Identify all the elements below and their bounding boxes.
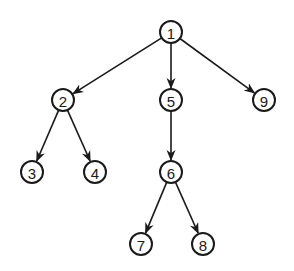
tree-node-5: 5 — [160, 89, 182, 111]
tree-node-4: 4 — [84, 161, 106, 183]
tree-node-2: 2 — [52, 89, 74, 111]
edge-2-to-3 — [37, 110, 59, 161]
edges-group — [37, 38, 255, 233]
tree-node-8: 8 — [192, 233, 214, 255]
node-label: 7 — [137, 237, 145, 254]
node-label: 5 — [167, 93, 175, 110]
tree-diagram: 125934678 — [0, 0, 294, 271]
node-label: 4 — [91, 165, 99, 182]
node-label: 9 — [260, 93, 268, 110]
node-label: 1 — [167, 25, 175, 42]
tree-node-9: 9 — [253, 89, 275, 111]
edge-1-to-9 — [180, 38, 254, 92]
edge-1-to-2 — [73, 38, 162, 94]
nodes-group: 125934678 — [21, 21, 275, 255]
tree-node-6: 6 — [160, 161, 182, 183]
edge-6-to-7 — [146, 182, 167, 233]
node-label: 3 — [28, 165, 36, 182]
edge-2-to-4 — [67, 110, 90, 161]
node-label: 8 — [199, 237, 207, 254]
tree-node-3: 3 — [21, 161, 43, 183]
node-label: 6 — [167, 165, 175, 182]
tree-node-7: 7 — [130, 233, 152, 255]
tree-node-1: 1 — [160, 21, 182, 43]
edge-6-to-8 — [175, 182, 198, 233]
node-label: 2 — [59, 93, 67, 110]
